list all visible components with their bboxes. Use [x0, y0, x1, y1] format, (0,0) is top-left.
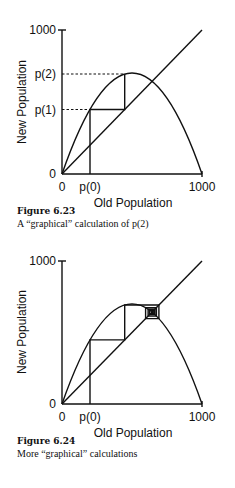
y-tick-label-0: 0 — [49, 167, 56, 181]
cobweb-path — [90, 74, 125, 174]
y-axis-title: New Population — [15, 60, 29, 144]
x-axis-title: Old Population — [94, 426, 173, 440]
x-tick-label-p0: p(0) — [79, 180, 100, 194]
y-tick-label-1000: 1000 — [29, 254, 56, 268]
caption-text: A “graphical” calculation of p(2) — [17, 218, 149, 230]
x-axis-title: Old Population — [94, 196, 173, 210]
diagonal-line — [62, 30, 202, 174]
y-tick-label-p1: p(1) — [35, 103, 56, 117]
caption-title: Figure 6.23 — [17, 206, 75, 216]
x-tick-label-1000: 1000 — [189, 410, 216, 424]
caption-title: Figure 6.24 — [17, 436, 75, 446]
figure-6-24: 1000 0 0 p(0) 1000 Old Population New Po… — [15, 254, 216, 459]
logistic-curve — [62, 73, 202, 174]
x-tick-label-0: 0 — [59, 410, 66, 424]
caption-text: More “graphical” calculations — [17, 448, 138, 459]
diagonal-line — [62, 261, 202, 404]
cobweb-path — [90, 305, 159, 404]
y-tick-label-p2: p(2) — [35, 67, 56, 81]
y-axis-title: New Population — [15, 290, 29, 374]
x-tick-label-p0: p(0) — [79, 410, 100, 424]
figure-page: 1000 p(2) p(1) 0 0 p(0) 1000 Old Populat… — [0, 0, 235, 488]
x-tick-label-0: 0 — [59, 180, 66, 194]
figure-6-23: 1000 p(2) p(1) 0 0 p(0) 1000 Old Populat… — [15, 23, 216, 230]
logistic-curve — [62, 304, 202, 404]
x-tick-label-1000: 1000 — [189, 180, 216, 194]
y-tick-label-1000: 1000 — [29, 23, 56, 37]
y-tick-label-0: 0 — [49, 397, 56, 411]
